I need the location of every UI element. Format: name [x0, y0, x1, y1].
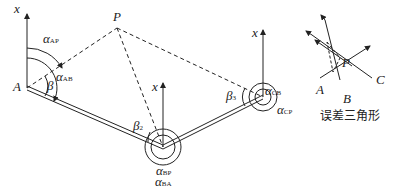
x-axis-label-a: x — [14, 2, 20, 15]
triangle-c-label: C — [376, 73, 385, 86]
resection-diagram: x A P αAP αAB β x β2 αBP αBA x β3 αCB αC… — [0, 0, 395, 190]
alpha-ab-label: αAB — [56, 70, 73, 83]
alpha-cb-label: αCB — [265, 84, 281, 97]
point-p-label: P — [113, 10, 121, 23]
beta-label: β — [47, 79, 53, 92]
x-axis-label-c: x — [252, 26, 258, 39]
diagram-lines — [0, 0, 395, 190]
beta3-label: β3 — [226, 89, 236, 102]
alpha-ap-label: αAP — [43, 32, 59, 45]
alpha-cp-label: αCP — [277, 103, 292, 116]
triangle-a-label: A — [316, 83, 324, 96]
error-triangle-caption: 误差三角形 — [320, 106, 380, 123]
point-a-label: A — [13, 80, 21, 93]
beta2-label: β2 — [133, 119, 143, 132]
alpha-ba-label: αBA — [155, 175, 172, 188]
triangle-b-label: B — [343, 92, 351, 105]
triangle-p-label: P — [342, 56, 350, 69]
x-axis-label-b: x — [152, 80, 158, 93]
